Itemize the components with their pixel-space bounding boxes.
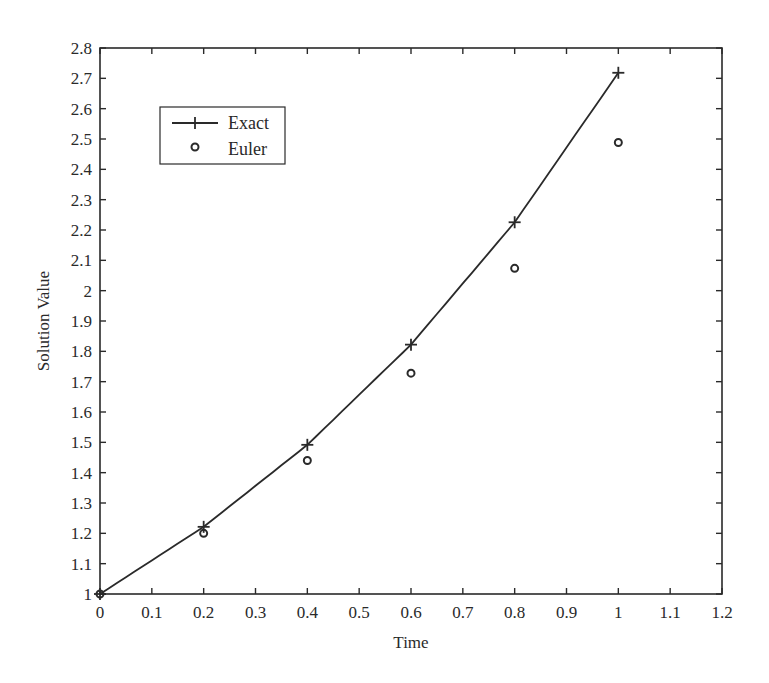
y-tick-label: 2.6 <box>71 100 92 119</box>
euler-marker <box>304 457 311 464</box>
x-tick-label: 0.1 <box>141 603 162 622</box>
y-tick-label: 2.3 <box>71 191 92 210</box>
x-tick-label: 0.9 <box>556 603 577 622</box>
y-tick-label: 2.2 <box>71 221 92 240</box>
y-tick-label: 1.1 <box>71 555 92 574</box>
y-tick-label: 1.3 <box>71 494 92 513</box>
y-tick-label: 1.6 <box>71 403 92 422</box>
y-tick-label: 1.4 <box>71 464 93 483</box>
x-tick-label: 0.5 <box>349 603 370 622</box>
legend: Exact Euler <box>160 107 285 164</box>
legend-label-exact: Exact <box>228 113 269 133</box>
y-tick-label: 2 <box>84 282 93 301</box>
x-tick-label: 0.7 <box>452 603 474 622</box>
x-tick-label: 0.4 <box>297 603 319 622</box>
y-axis-label: Solution Value <box>34 271 53 371</box>
y-tick-label: 2.7 <box>71 69 93 88</box>
euler-marker <box>511 265 518 272</box>
y-tick-label: 1.2 <box>71 524 92 543</box>
euler-marker <box>408 370 415 377</box>
x-tick-label: 1.2 <box>711 603 732 622</box>
x-tick-label: 0.3 <box>245 603 266 622</box>
euler-marker <box>615 139 622 146</box>
y-tick-label: 2.1 <box>71 251 92 270</box>
y-tick-label: 2.8 <box>71 39 92 58</box>
exact-marker <box>612 67 624 79</box>
chart: 00.10.20.30.40.50.60.70.80.911.11.2 11.1… <box>0 0 769 683</box>
legend-label-euler: Euler <box>228 139 267 159</box>
y-tick-label: 1.5 <box>71 433 92 452</box>
y-tick-label: 2.4 <box>71 160 93 179</box>
x-tick-label: 1.1 <box>660 603 681 622</box>
x-tick-label: 0 <box>96 603 105 622</box>
y-tick-label: 1 <box>84 585 93 604</box>
y-tick-label: 2.5 <box>71 130 92 149</box>
x-tick-label: 0.8 <box>504 603 525 622</box>
x-axis-label: Time <box>393 633 428 652</box>
y-tick-label: 1.8 <box>71 342 92 361</box>
y-tick-label: 1.9 <box>71 312 92 331</box>
x-tick-label: 0.2 <box>193 603 214 622</box>
x-tick-label: 0.6 <box>400 603 421 622</box>
y-tick-label: 1.7 <box>71 373 93 392</box>
x-tick-label: 1 <box>614 603 623 622</box>
